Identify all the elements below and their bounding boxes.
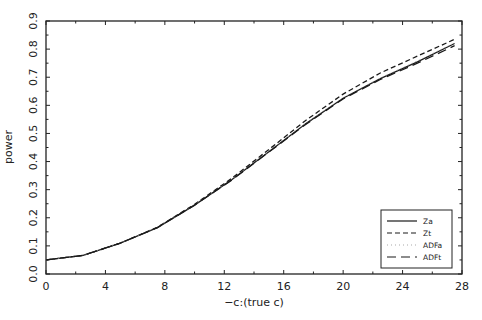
y-tick-label: 0.8 xyxy=(27,40,40,58)
legend-label-adfa: ADFa xyxy=(423,241,442,250)
y-tick-label: 0.2 xyxy=(27,209,40,227)
y-tick-label: 0.6 xyxy=(27,97,40,115)
x-tick-label: 24 xyxy=(396,280,410,293)
y-tick-label: 0.3 xyxy=(27,181,40,199)
y-tick-label: 0.9 xyxy=(27,12,40,30)
y-tick-label: 0.0 xyxy=(27,265,40,283)
legend-label-adft: ADFt xyxy=(423,253,441,262)
power-chart: 0481216202428 0.00.10.20.30.40.50.60.70.… xyxy=(0,0,482,320)
legend-label-zt: Zt xyxy=(423,229,431,238)
y-tick-label: 0.5 xyxy=(27,125,40,143)
x-tick-label: 16 xyxy=(277,280,291,293)
y-tick-label: 0.4 xyxy=(27,153,40,171)
x-tick-label: 28 xyxy=(455,280,469,293)
x-tick-label: 4 xyxy=(102,280,109,293)
legend: ZaZtADFaADFt xyxy=(381,210,452,268)
x-tick-label: 0 xyxy=(43,280,50,293)
y-tick-label: 0.1 xyxy=(27,237,40,255)
x-axis-label: −c:(true c) xyxy=(224,296,284,309)
y-axis-label: power xyxy=(2,130,15,164)
legend-label-za: Za xyxy=(423,217,433,226)
x-tick-label: 12 xyxy=(217,280,231,293)
y-tick-label: 0.7 xyxy=(27,68,40,86)
x-tick-label: 20 xyxy=(336,280,350,293)
x-tick-label: 8 xyxy=(161,280,168,293)
